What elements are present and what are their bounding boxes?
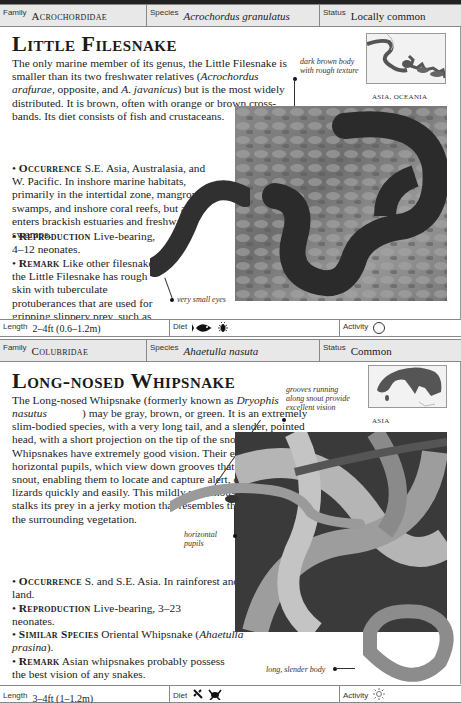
reproduction-keyword: Reproduction [19,602,91,614]
frog-icon [208,688,222,700]
entry1-reproduction: • Reproduction Live-bearing, 4–12 neonat… [12,230,162,256]
lizard-icon [192,688,204,700]
entry1-family-cell: Family Acrochordidae [0,5,147,26]
filesnake-photo [235,106,447,301]
entry1-length-cell: Length 2–4ft (0.6–1.2m) [0,320,170,336]
species-label: Species [150,8,178,17]
entry1-title: Little Filesnake [12,31,177,57]
entry1-species-cell: Species Acrochordus granulatus [147,5,320,26]
intro-text: , opposite, and [52,83,121,95]
circle-icon [373,322,385,334]
species-value: Acrochordus granulatus [183,10,289,22]
entry2-diet-cell: Diet [170,686,340,702]
status-label: Status [323,343,346,352]
family-value: Acrochordidae [32,10,107,22]
sun-icon [373,688,385,700]
snake-body-icon [235,106,447,301]
intro-italic: A. javanicus [121,83,177,95]
annotation-horizontal-pupils: horizontal pupils [184,530,230,548]
fish-icon [192,322,214,334]
status-label: Status [323,8,346,17]
occurrence-keyword: Occurrence [19,575,82,587]
status-value: Common [351,345,392,357]
entry2-title: Long-nosed Whipsnake [12,368,235,394]
annotation-leader-line [294,79,295,109]
intro-text: The Long-nosed Whipsnake (formerly known… [12,394,236,406]
entry2-status-cell: Status Common [320,340,461,361]
map-asia-oceania-icon [367,34,446,84]
range-map [366,33,446,84]
length-value: 3–4ft (1–1.2m) [32,693,93,703]
length-label: Length [3,691,27,700]
entry1-header-row: Family Acrochordidae Species Acrochordus… [0,4,461,27]
entry2-activity-cell: Activity [340,686,461,702]
diet-label: Diet [173,691,187,700]
family-label: Family [3,8,27,17]
annotation-long-body: long, slender body [266,665,325,674]
status-value: Locally common [351,10,426,22]
entry1-activity-cell: Activity [340,320,461,336]
entry2-header-row: Family Colubridae Species Ahaetulla nasu… [0,339,461,362]
similar-text: ). [47,641,54,653]
remark-keyword: Remark [19,257,60,269]
entry1-status-cell: Status Locally common [320,5,461,26]
annotation-leader-line [335,668,355,669]
entry1-footer-row: Length 2–4ft (0.6–1.2m) Diet Activity [0,319,461,337]
annotation-pointer-dot [170,298,174,302]
range-map [368,365,447,408]
length-label: Length [3,322,27,331]
length-value: 2–4ft (0.6–1.2m) [32,323,100,334]
annotation-pointer-dot [282,418,286,422]
map-caption: ASIA [372,417,390,425]
entry2-body: Long-nosed Whipsnake The Long-nosed Whip… [0,362,461,684]
entry2-family-cell: Family Colubridae [0,340,147,361]
reproduction-keyword: Reproduction [19,230,91,242]
whipsnake-body-icon [170,462,460,692]
activity-label: Activity [343,322,368,331]
annotation-grooves: grooves running along snout provide exce… [286,385,356,412]
remark-keyword: Remark [19,655,60,667]
entry1-body: Little Filesnake The only marine member … [0,27,461,319]
family-label: Family [3,343,27,352]
annotation-leader-line [234,506,235,536]
entry2-length-cell: Length 3–4ft (1–1.2m) [0,686,170,702]
diet-label: Diet [173,322,187,331]
entry2-footer-row: Length 3–4ft (1–1.2m) Diet Activity [0,685,461,703]
insect-icon [218,322,228,334]
annotation-small-eyes: very small eyes [177,295,237,304]
annotation-rough-texture: dark brown body with rough texture [300,57,370,75]
map-caption: ASIA, OCEANIA [372,93,427,101]
similar-species-keyword: Similar Species [19,628,99,640]
map-asia-icon [369,366,447,408]
activity-label: Activity [343,691,368,700]
family-value: Colubridae [32,345,89,357]
entry2-species-cell: Species Ahaetulla nasuta [147,340,320,361]
species-label: Species [150,343,178,352]
annotation-pointer-dot [233,534,237,538]
species-value: Ahaetulla nasuta [183,345,258,357]
entry1-diet-cell: Diet [170,320,340,336]
occurrence-keyword: Occurrence [19,162,82,174]
